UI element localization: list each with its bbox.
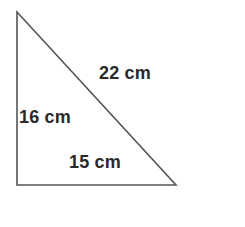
- vertical-leg-length-label: 16 cm: [19, 107, 71, 127]
- triangle-figure: 22 cm 16 cm 15 cm: [0, 0, 245, 227]
- hypotenuse-length-label: 22 cm: [99, 63, 151, 83]
- base-leg-length-label: 15 cm: [69, 152, 121, 172]
